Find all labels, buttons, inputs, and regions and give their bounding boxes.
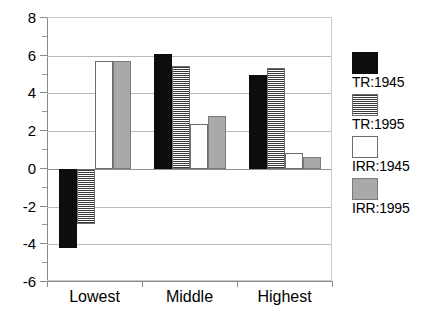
gray-swatch: [352, 178, 378, 200]
bar: [95, 61, 113, 168]
x-tick: [47, 281, 48, 287]
x-tick: [237, 281, 238, 287]
bar: [249, 75, 267, 169]
legend-label: TR:1945: [352, 74, 440, 90]
legend-entry: TR:1945: [352, 52, 440, 90]
y-tick-label: -2: [0, 198, 36, 213]
y-tick-label: 8: [0, 10, 36, 25]
x-tick: [332, 281, 333, 287]
bar-chart: 86420-2-4-6 LowestMiddleHighest TR:1945T…: [0, 0, 441, 319]
plot-area: [47, 17, 332, 281]
bar: [172, 66, 190, 169]
bar: [59, 169, 77, 248]
bar: [154, 54, 172, 169]
x-tick-label-middle: Middle: [166, 288, 213, 306]
legend-entry: IRR:1995: [352, 178, 440, 216]
bar: [267, 68, 285, 169]
bar: [208, 116, 226, 169]
y-tick-label: -6: [0, 274, 36, 289]
y-tick-label: 0: [0, 160, 36, 175]
legend-label: TR:1995: [352, 116, 440, 132]
stripe-swatch: [352, 94, 378, 116]
legend-entry: TR:1995: [352, 94, 440, 132]
bar: [285, 153, 303, 169]
white-swatch: [352, 136, 378, 158]
legend-label: IRR:1995: [352, 200, 440, 216]
bar: [303, 157, 321, 169]
legend-label: IRR:1945: [352, 158, 440, 174]
bar: [190, 124, 208, 169]
black-swatch: [352, 52, 378, 74]
y-tick-label: -4: [0, 236, 36, 251]
y-tick-label: 4: [0, 85, 36, 100]
y-tick-label: 6: [0, 47, 36, 62]
legend: TR:1945TR:1995IRR:1945IRR:1995: [352, 52, 440, 220]
y-tick-label: 2: [0, 123, 36, 138]
x-axis-line: [47, 281, 333, 282]
gridline: [47, 244, 331, 245]
bar: [113, 61, 131, 168]
x-tick-label-highest: Highest: [257, 288, 311, 306]
bar: [77, 169, 95, 224]
x-tick-label-lowest: Lowest: [69, 288, 120, 306]
legend-entry: IRR:1945: [352, 136, 440, 174]
x-tick: [142, 281, 143, 287]
gridline: [47, 56, 331, 57]
